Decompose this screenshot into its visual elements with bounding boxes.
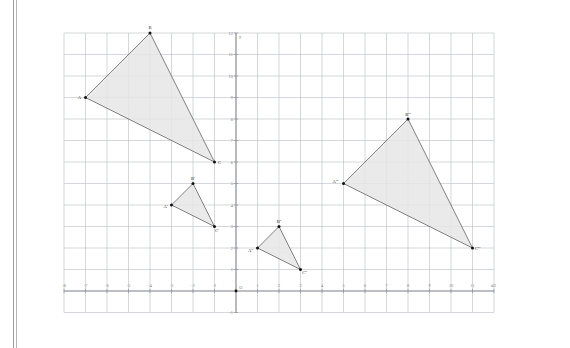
vertex-point-B'' xyxy=(278,225,281,228)
y-tick-label-3: 3 xyxy=(231,224,233,229)
x-tick-label-2: 2 xyxy=(278,283,280,288)
x-tick-label-5: 5 xyxy=(342,283,344,288)
vertex-point-A xyxy=(84,96,87,99)
x-tick-label--6: -6 xyxy=(105,283,109,288)
x-tick-label-6: 6 xyxy=(364,283,366,288)
y-tick-label-2: 2 xyxy=(231,246,233,251)
vertex-point-A''' xyxy=(342,182,345,185)
y-tick-label-10: 10 xyxy=(229,74,233,79)
x-tick-label-3: 3 xyxy=(299,283,301,288)
vertex-label-C'': C'' xyxy=(302,270,307,275)
x-tick-label--2: -2 xyxy=(191,283,195,288)
x-axis-ticks xyxy=(64,289,494,293)
y-tick-label--1: -1 xyxy=(229,310,233,315)
diagram-canvas: -8-7-6-5-4-3-2-1123456789101112 12111098… xyxy=(0,0,570,348)
vertex-point-B''' xyxy=(407,118,410,121)
y-tick-label-9: 9 xyxy=(231,95,233,100)
vertex-label-B'': B'' xyxy=(277,219,282,224)
origin-point xyxy=(235,290,238,293)
vertex-point-C xyxy=(213,161,216,164)
y-tick-label-1: 1 xyxy=(231,267,233,272)
y-tick-label-5: 5 xyxy=(231,181,233,186)
x-tick-label-10: 10 xyxy=(449,283,453,288)
x-tick-label--7: -7 xyxy=(84,283,88,288)
x-tick-label-9: 9 xyxy=(428,283,430,288)
x-tick-label-1: 1 xyxy=(256,283,258,288)
vertex-point-A'' xyxy=(256,247,259,250)
vertex-point-A' xyxy=(170,204,173,207)
x-tick-label--3: -3 xyxy=(170,283,174,288)
y-tick-label-12: 12 xyxy=(229,31,233,36)
vertex-label-B': B' xyxy=(191,176,195,181)
x-tick-label--8: -8 xyxy=(62,283,66,288)
x-tick-label-11: 11 xyxy=(470,283,474,288)
vertex-point-C''' xyxy=(471,247,474,250)
vertex-point-B' xyxy=(192,182,195,185)
y-tick-label-11: 11 xyxy=(229,52,233,57)
vertex-label-A'': A'' xyxy=(248,248,253,253)
y-tick-label-8: 8 xyxy=(231,117,233,122)
vertex-point-B xyxy=(149,32,152,35)
vertex-label-C''': C''' xyxy=(475,246,481,251)
vertex-label-A': A' xyxy=(163,204,167,209)
y-tick-label-6: 6 xyxy=(231,160,233,165)
x-tick-label--1: -1 xyxy=(213,283,217,288)
x-tick-label-7: 7 xyxy=(385,283,387,288)
vertex-label-B''': B''' xyxy=(405,112,411,117)
x-tick-label--5: -5 xyxy=(127,283,131,288)
vertex-label-C': C' xyxy=(215,228,219,233)
x-tick-label-8: 8 xyxy=(407,283,409,288)
y-tick-label-7: 7 xyxy=(231,138,233,143)
vertex-label-A''': A''' xyxy=(333,179,339,184)
origin-label: O xyxy=(239,285,242,290)
coordinate-plane-svg: -8-7-6-5-4-3-2-1123456789101112 12111098… xyxy=(0,0,570,348)
vertex-label-C: C xyxy=(218,160,221,165)
vertex-label-B: B xyxy=(148,25,151,30)
